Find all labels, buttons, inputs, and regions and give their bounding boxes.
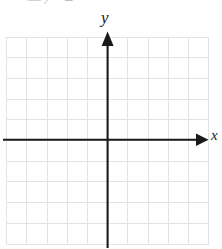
y-axis-arrowhead-icon (102, 32, 114, 47)
x-axis-arrowhead-icon (196, 134, 209, 146)
y-axis-label: y (101, 9, 109, 26)
x-axis (3, 134, 209, 146)
graph-figure: · —⁄ – (0, 0, 222, 249)
coordinate-plane-svg (0, 0, 222, 249)
x-axis-label: x (211, 128, 218, 143)
